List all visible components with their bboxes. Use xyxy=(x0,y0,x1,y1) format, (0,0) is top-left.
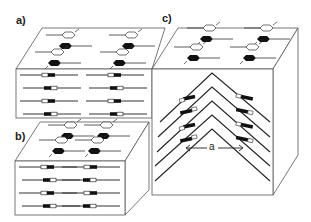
block-c xyxy=(152,22,298,195)
diagram-canvas xyxy=(0,0,311,222)
block-b xyxy=(15,119,149,215)
period-label: a xyxy=(209,141,215,152)
block-a xyxy=(16,28,165,118)
